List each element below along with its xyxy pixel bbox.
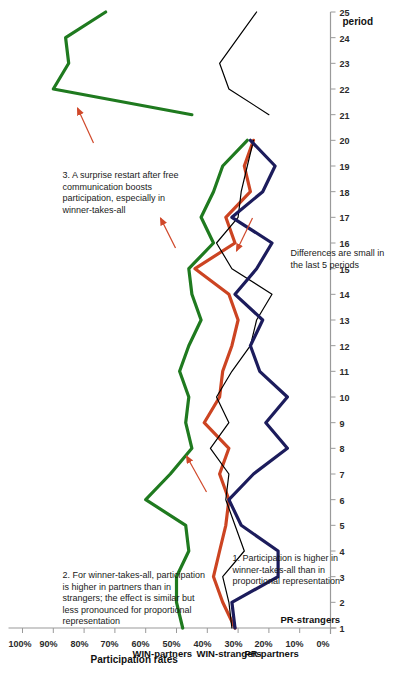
x-tick-label: 8 — [339, 444, 344, 454]
x-tick-label: 17 — [339, 213, 349, 223]
x-tick-label: 6 — [339, 496, 344, 506]
x-tick-label: 13 — [339, 316, 349, 326]
x-tick-label: 7 — [339, 470, 344, 480]
series-label-pr-strangers: PR-strangers — [280, 614, 340, 625]
x-axis-title: period — [342, 16, 373, 27]
x-tick-label: 5 — [339, 521, 344, 531]
x-tick-label: 21 — [339, 111, 349, 121]
x-tick-label: 14 — [339, 290, 349, 300]
x-tick-label: 2 — [339, 598, 344, 608]
x-tick-label: 9 — [339, 419, 344, 429]
y-tick-label: 80% — [70, 639, 88, 649]
series-label-pr-partners: PR-partners — [244, 648, 298, 659]
x-tick-label: 12 — [339, 342, 349, 352]
y-tick-label: 100% — [8, 639, 31, 649]
x-tick-label: 10 — [339, 393, 349, 403]
x-tick-label: 18 — [339, 188, 349, 198]
annotation-1: 1. Participation is higher in winner-tak… — [232, 553, 340, 588]
x-tick-label: 11 — [339, 367, 349, 377]
x-tick-label: 20 — [339, 136, 349, 146]
x-tick-label: 19 — [339, 162, 349, 172]
x-tick-label: 1 — [339, 624, 344, 634]
x-tick-label: 24 — [339, 34, 349, 44]
y-tick-label: 0% — [316, 639, 329, 649]
chart-figure: 0%10%20%30%40%50%60%70%80%90%100% 123456… — [0, 0, 409, 688]
annotation-differences: Differences are small in the last 5 peri… — [290, 248, 384, 271]
annotation-3: 3. A surprise restart after free communi… — [62, 170, 180, 216]
series-label-win-partners: WIN-partners — [132, 648, 192, 659]
chart-screenshot: 0%10%20%30%40%50%60%70%80%90%100% 123456… — [0, 0, 409, 688]
chart-text-layer: 0%10%20%30%40%50%60%70%80%90%100% 123456… — [0, 0, 409, 688]
x-tick-label: 22 — [339, 85, 349, 95]
x-tick-label: 23 — [339, 59, 349, 69]
y-tick-label: 70% — [100, 639, 118, 649]
y-tick-label: 90% — [39, 639, 57, 649]
annotation-2: 2. For winner-takes-all, participation i… — [62, 570, 212, 628]
